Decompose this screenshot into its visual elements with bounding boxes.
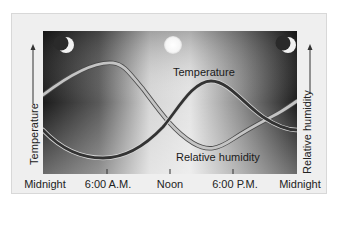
x-tick-label-midnight-start: Midnight [24, 178, 66, 190]
y-axis-right-label: Relative humidity [301, 90, 313, 174]
x-tick-label-6am: 6:00 A.M. [85, 178, 131, 190]
y-axis-left-label: Temperature [28, 103, 40, 165]
sun-icon [164, 36, 182, 54]
right-axis-arrow-icon [305, 44, 315, 94]
humidity-curve-label: Relative humidity [176, 151, 260, 163]
x-tick-label-midnight-end: Midnight [279, 178, 321, 190]
x-tick-label-noon: Noon [157, 178, 183, 190]
left-axis-arrow-icon [28, 44, 38, 104]
x-tick-label-6pm: 6:00 P.M. [212, 178, 258, 190]
temperature-curve-label: Temperature [173, 66, 235, 78]
